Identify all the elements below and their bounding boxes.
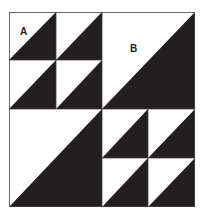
quadrant-bottom-left-unit-b bbox=[9, 109, 102, 207]
label-b: B bbox=[130, 43, 137, 54]
label-a: A bbox=[20, 26, 27, 37]
quadrant-top-right-unit-b bbox=[102, 12, 195, 109]
quilt-block-diagram: A B bbox=[9, 12, 195, 207]
